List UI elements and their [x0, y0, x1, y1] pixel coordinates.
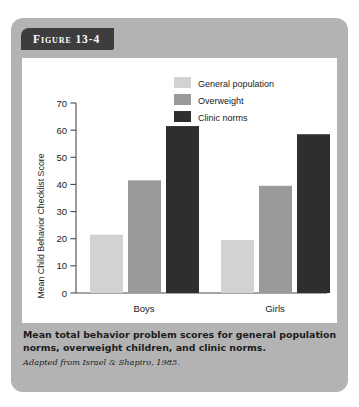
figure-caption: Mean total behavior problem scores for g…	[23, 328, 338, 368]
caption-title: Mean total behavior problem scores for g…	[23, 328, 338, 354]
chart-panel: General population Overweight Clinic nor…	[22, 58, 337, 323]
y-tick-label-70: 70	[56, 98, 67, 109]
y-tick-label-30: 30	[56, 206, 67, 217]
bar-girls-clinic-norms	[297, 134, 330, 293]
chart-legend: General population Overweight Clinic nor…	[174, 77, 274, 123]
figure-card: Figure 13-4 General population Overweigh…	[11, 18, 348, 392]
bar-girls-overweight	[259, 186, 292, 293]
bar-chart: General population Overweight Clinic nor…	[22, 58, 337, 323]
y-tick-label-40: 40	[56, 179, 67, 190]
bar-girls-general-population	[221, 240, 254, 293]
bar-boys-overweight	[128, 180, 161, 293]
bar-group-girls	[221, 134, 330, 293]
y-axis-title: Mean Child Behavior Checklist Score	[36, 153, 46, 298]
legend-swatch-clinic-norms	[174, 111, 191, 122]
caption-source: Adapted from Israel & Shapiro, 1985.	[23, 357, 338, 368]
legend-label-overweight: Overweight	[198, 96, 244, 106]
legend-label-clinic-norms: Clinic norms	[198, 113, 248, 123]
y-tick-label-20: 20	[56, 233, 67, 244]
y-axis-ticks: 0 10 20 30 40 50 60 70	[56, 98, 76, 299]
legend-swatch-general-population	[174, 77, 191, 88]
x-axis-label-boys: Boys	[133, 303, 154, 314]
figure-number-label: Figure 13-4	[33, 33, 100, 45]
bar-boys-general-population	[90, 235, 123, 293]
legend-label-general-population: General population	[198, 79, 274, 89]
y-tick-label-50: 50	[56, 152, 67, 163]
bar-group-boys	[90, 126, 199, 293]
figure-number-tab: Figure 13-4	[21, 28, 114, 50]
bar-boys-clinic-norms	[166, 126, 199, 293]
y-tick-label-10: 10	[56, 260, 67, 271]
legend-swatch-overweight	[174, 94, 191, 105]
x-axis-label-girls: Girls	[265, 303, 285, 314]
y-tick-label-60: 60	[56, 125, 67, 136]
y-tick-label-0: 0	[62, 288, 67, 299]
